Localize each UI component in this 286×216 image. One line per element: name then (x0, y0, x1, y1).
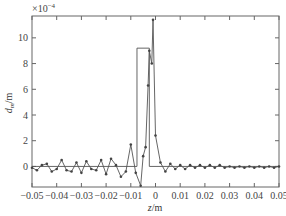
plot-frame (32, 16, 279, 187)
data-point-marker (144, 146, 147, 149)
step-line (32, 48, 279, 166)
data-point-marker (164, 170, 167, 173)
data-point-marker (120, 175, 123, 178)
data-point-marker (154, 134, 157, 137)
data-point-marker (90, 168, 93, 171)
data-point-marker (36, 169, 39, 172)
data-point-marker (233, 166, 236, 169)
data-point-marker (184, 168, 187, 171)
data-point-marker (147, 84, 150, 87)
data-point-marker (199, 164, 202, 167)
x-tick-label: 0.01 (171, 190, 189, 201)
data-point-marker (105, 173, 108, 176)
y-tick-label: 10 (18, 32, 28, 43)
data-point-marker (238, 165, 241, 168)
data-point-marker (46, 163, 49, 166)
data-point-marker (95, 169, 98, 172)
data-point-marker (152, 19, 155, 22)
x-axis-label: z/m (147, 202, 163, 213)
x-tick-label: 0.05 (270, 190, 286, 201)
data-series-line (31, 19, 281, 187)
data-point-marker (134, 172, 137, 175)
data-point-marker (50, 170, 53, 173)
x-tick-label: 0.04 (246, 190, 264, 201)
data-point-marker (278, 165, 281, 168)
data-point-marker (148, 49, 151, 52)
y-axis-multiplier: ×10−4 (32, 2, 56, 14)
data-point-marker (65, 169, 68, 172)
data-point-marker (253, 166, 256, 169)
y-tick-label: 8 (23, 58, 28, 69)
data-point-marker (213, 166, 216, 169)
x-tick-label: −0.02 (95, 190, 118, 201)
data-point-marker (209, 164, 212, 167)
data-point-marker (142, 155, 145, 158)
data-point-marker (55, 168, 58, 171)
data-point-marker (115, 164, 118, 167)
data-point-marker (204, 166, 207, 169)
x-tick-label: −0.01 (119, 190, 142, 201)
data-point-marker (174, 168, 177, 171)
y-tick-label: 4 (23, 110, 28, 121)
data-point-marker (100, 159, 103, 162)
data-point-marker (248, 165, 251, 168)
data-point-marker (85, 160, 88, 163)
data-point-marker (268, 165, 271, 168)
data-point-marker (139, 184, 142, 187)
data-point-marker (60, 159, 63, 162)
data-point-marker (70, 170, 73, 173)
data-point-marker (110, 157, 113, 160)
data-point-marker (150, 62, 153, 65)
x-tick-label: 0.02 (196, 190, 214, 201)
data-point-marker (194, 166, 197, 169)
data-point-marker (41, 164, 44, 167)
data-point-marker (228, 165, 231, 168)
y-tick-label: 6 (23, 84, 28, 95)
series-path (32, 20, 279, 186)
y-axis-label: dm/m (3, 92, 16, 113)
x-tick-label: −0.05 (20, 190, 43, 201)
true-profile-step (32, 48, 279, 166)
data-point-marker (179, 164, 182, 167)
x-tick-label: −0.03 (70, 190, 93, 201)
data-point-marker (80, 172, 83, 175)
data-point-marker (223, 166, 226, 169)
data-point-marker (218, 164, 221, 167)
y-tick-label: 2 (23, 135, 28, 146)
x-tick-label: 0.03 (221, 190, 239, 201)
data-point-marker (189, 164, 192, 167)
y-tick-label: 0 (23, 161, 28, 172)
data-point-marker (169, 163, 172, 166)
data-point-marker (159, 161, 162, 164)
data-point-marker (125, 170, 128, 173)
line-chart: −0.05−0.04−0.03−0.02−0.0100.010.020.030.… (0, 0, 286, 216)
data-point-marker (31, 166, 34, 169)
data-point-marker (75, 161, 78, 164)
data-point-marker (243, 166, 246, 169)
x-tick-label: −0.04 (45, 190, 68, 201)
data-point-marker (263, 166, 266, 169)
data-point-marker (130, 143, 133, 146)
y-axis-ticks: 0246810 (18, 32, 279, 172)
x-tick-label: 0 (153, 190, 158, 201)
data-point-marker (258, 165, 261, 168)
data-point-marker (273, 166, 276, 169)
